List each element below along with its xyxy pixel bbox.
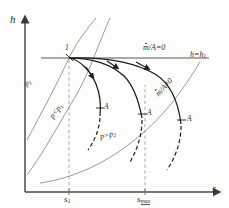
- isobar-curve-p2: [40, 62, 200, 183]
- x-tick-label-s1: s1: [64, 195, 70, 205]
- isenthalp-label: h=h1: [190, 51, 206, 59]
- point-a-label-2: A: [147, 109, 152, 117]
- point-a-label-3: A: [187, 115, 192, 123]
- mdot-zero-value: 0: [161, 43, 165, 52]
- guide-lines: [69, 58, 145, 191]
- mdot-zero-numerator: m: [143, 44, 149, 52]
- x-tick-label-smax: smax: [137, 195, 150, 205]
- isobar-curve-p1: [27, 18, 96, 140]
- x-tick-label-smax-sub: max: [141, 198, 151, 205]
- point-a-label-1: A: [104, 103, 109, 111]
- isobar-curve-p-less-p1: [27, 18, 110, 175]
- mdot-zero-label: m/A=0: [143, 44, 165, 52]
- x-axis-label: s: [212, 183, 216, 194]
- process-branch-1: [69, 58, 101, 116]
- y-axis-label: h: [10, 14, 16, 25]
- state-point-label: 1: [65, 44, 69, 52]
- isenthalp-label-sub: 1: [203, 53, 206, 59]
- x-tick-label-s1-sub: 1: [68, 198, 71, 204]
- isenthalp-label-main: h=h: [190, 50, 203, 59]
- hs-diagram-figure: h s 1 p1 p<p1 p=p2 m/A=0 h=h1 m/A≠0 A A …: [0, 0, 229, 208]
- dashed-branch-1: [88, 118, 100, 150]
- x-tick-label-smax-main: s: [137, 194, 141, 204]
- dashed-branch-3: [167, 126, 181, 170]
- dashed-branch-2: [130, 120, 142, 162]
- diagram-canvas: [0, 0, 229, 208]
- isobar-group: [27, 18, 209, 183]
